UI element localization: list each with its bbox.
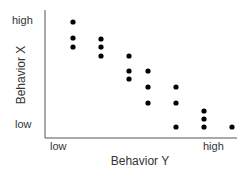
x-axis-title: Behavior Y xyxy=(111,155,169,167)
data-point xyxy=(98,53,103,58)
data-point xyxy=(98,36,103,41)
y-tick-high: high xyxy=(12,15,33,26)
data-point xyxy=(145,100,150,105)
data-point xyxy=(173,84,178,89)
data-point xyxy=(201,108,206,113)
y-axis-title: Behavior X xyxy=(15,46,27,105)
data-point xyxy=(145,84,150,89)
data-point xyxy=(126,68,131,73)
data-point xyxy=(145,68,150,73)
x-tick-high: high xyxy=(203,141,224,152)
x-tick-low: low xyxy=(50,141,67,152)
data-points xyxy=(70,19,234,129)
data-point xyxy=(70,44,75,49)
data-point xyxy=(126,76,131,81)
data-point xyxy=(229,124,234,129)
data-point xyxy=(70,19,75,24)
data-point xyxy=(201,124,206,129)
y-tick-low: low xyxy=(15,119,32,130)
data-point xyxy=(70,35,75,40)
data-point xyxy=(98,44,103,49)
data-point xyxy=(173,100,178,105)
data-point xyxy=(126,53,131,58)
data-point xyxy=(201,116,206,121)
data-point xyxy=(173,124,178,129)
